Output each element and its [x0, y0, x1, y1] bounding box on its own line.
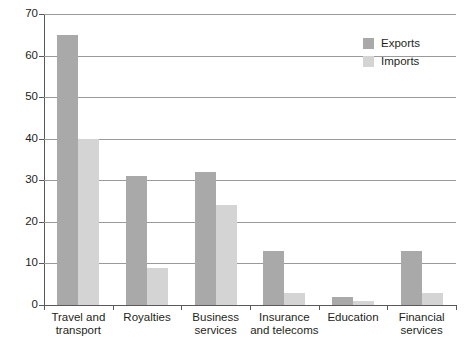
bar-exports [195, 172, 216, 305]
bar-exports [332, 297, 353, 305]
y-axis-tick-label: 60 [25, 50, 38, 62]
bar-imports [422, 293, 443, 305]
bar-imports [147, 268, 168, 305]
x-axis-category-label: Insuranceand telecoms [250, 311, 319, 337]
legend-swatch-exports [363, 38, 374, 49]
x-axis-tick [319, 305, 320, 310]
x-axis-tick [456, 305, 457, 310]
bar-chart: 010203040506070 Travel andtransportRoyal… [0, 0, 469, 347]
category-label-line: services [387, 324, 456, 337]
category-label-line: Royalties [113, 311, 182, 324]
category-label-line: transport [44, 324, 113, 337]
bar-imports [78, 139, 99, 305]
y-axis-tick-label: 20 [25, 216, 38, 228]
category-label-line: Business [181, 311, 250, 324]
y-axis-tick-label: 70 [25, 8, 38, 20]
bar-imports [284, 293, 305, 305]
category-label-line: Education [319, 311, 388, 324]
category-label-line: Insurance [250, 311, 319, 324]
bar-exports [126, 176, 147, 305]
y-axis-tick-label: 0 [32, 299, 38, 311]
category-label-line: Financial [387, 311, 456, 324]
x-axis-category-label: Royalties [113, 311, 182, 324]
legend-swatch-imports [363, 56, 374, 67]
chart-legend: Exports Imports [363, 38, 420, 73]
y-axis-tick-label: 40 [25, 133, 38, 145]
x-axis-tick [387, 305, 388, 310]
bar-exports [57, 35, 78, 305]
x-axis-category-label: Businessservices [181, 311, 250, 337]
x-axis-tick [250, 305, 251, 310]
category-label-line: Travel and [44, 311, 113, 324]
bar-imports [353, 301, 374, 305]
x-axis-tick [44, 305, 45, 310]
bar-exports [263, 251, 284, 305]
x-axis-tick [181, 305, 182, 310]
y-axis-tick-label: 50 [25, 91, 38, 103]
bar-exports [401, 251, 422, 305]
legend-item-imports: Imports [363, 56, 420, 68]
x-axis-category-label: Education [319, 311, 388, 324]
legend-item-exports: Exports [363, 38, 420, 50]
y-axis-tick-label: 30 [25, 175, 38, 187]
x-axis-category-label: Financialservices [387, 311, 456, 337]
y-axis-tick-label: 10 [25, 258, 38, 270]
category-label-line: and telecoms [250, 324, 319, 337]
category-label-line: services [181, 324, 250, 337]
legend-label-exports: Exports [381, 38, 420, 50]
bar-imports [216, 205, 237, 305]
x-axis-tick [113, 305, 114, 310]
legend-label-imports: Imports [381, 56, 419, 68]
x-axis-category-label: Travel andtransport [44, 311, 113, 337]
y-axis-labels: 010203040506070 [0, 0, 38, 347]
